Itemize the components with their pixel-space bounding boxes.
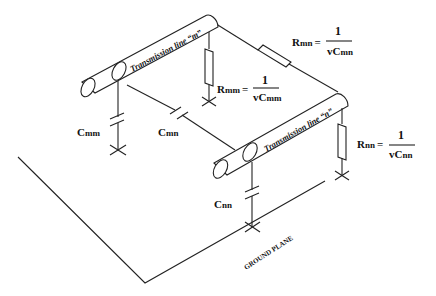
ground-plane-label: GROUND PLANE xyxy=(243,234,295,272)
rmm-numerator: 1 xyxy=(262,73,268,87)
resistor-rmn xyxy=(213,22,338,92)
resistor-rmm: Rmm= 1 vCmm xyxy=(202,32,282,106)
rmn-formula: Rmn= 1 vCmn xyxy=(292,24,353,57)
rnn-numerator: 1 xyxy=(398,128,404,142)
coupled-transmission-lines-diagram: GROUND PLANE Cmn Transmission line “m” C… xyxy=(0,0,436,296)
rmn-denominator: vCmn xyxy=(327,45,353,57)
rnn-denominator: vCnn xyxy=(389,148,412,160)
rnn-label: Rnn= xyxy=(357,138,383,150)
ground-plane: GROUND PLANE xyxy=(18,157,325,283)
rmn-numerator: 1 xyxy=(335,24,341,38)
rmn-label: Rmn= xyxy=(292,36,321,48)
cmn-label: Cmn xyxy=(158,126,178,138)
transmission-line-m: Transmission line “m” xyxy=(78,15,218,99)
cmm-label: Cmm xyxy=(77,126,100,138)
rmm-label: Rmm= xyxy=(217,83,248,95)
cnn-label: Cnn xyxy=(214,198,232,210)
resistor-rnn: Rnn= 1 vCnn xyxy=(335,108,415,180)
rmm-denominator: vCmm xyxy=(253,91,282,103)
transmission-line-n: Transmission line “n” xyxy=(210,94,348,181)
transmission-line-m-label: Transmission line “m” xyxy=(128,27,204,74)
